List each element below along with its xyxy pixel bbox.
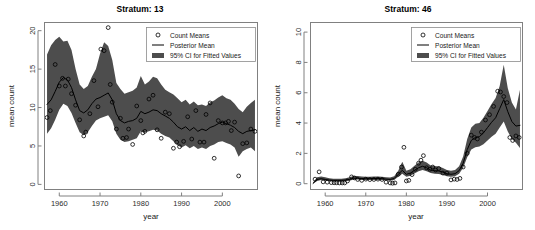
x-axis-tick-label: 1990 bbox=[173, 199, 190, 208]
legend-label-count-means: Count Means bbox=[170, 32, 210, 39]
y-axis-tick-label: 0 bbox=[28, 182, 37, 186]
chart-panel-stratum-13: Stratum: 13 05101520 1960197019801990200… bbox=[0, 0, 267, 230]
count-mean-point bbox=[106, 26, 110, 30]
count-mean-point bbox=[131, 143, 135, 147]
chart-svg-right: Stratum: 46 0246810 19601970198019902000… bbox=[268, 0, 535, 230]
x-axis-right: 19601970198019902000 bbox=[317, 193, 496, 209]
y-axis-tick-label: 4 bbox=[294, 121, 303, 125]
y-axis-tick-label: 2 bbox=[294, 151, 303, 155]
x-axis-tick-label: 1990 bbox=[439, 199, 456, 208]
legend-left: Count Means Posterior Mean 95% CI for Fi… bbox=[147, 28, 256, 62]
y-axis-tick-label: 0 bbox=[294, 182, 303, 186]
legend-label-ci: 95% CI for Fitted Values bbox=[170, 52, 242, 59]
figure-container: Stratum: 13 05101520 1960197019801990200… bbox=[0, 0, 535, 230]
y-axis-tick-label: 15 bbox=[28, 65, 37, 73]
count-mean-point bbox=[407, 178, 411, 182]
x-axis-title: year bbox=[408, 212, 424, 221]
x-axis-tick-label: 1980 bbox=[398, 199, 415, 208]
y-axis-right: 0246810 bbox=[294, 28, 308, 186]
y-axis-tick-label: 5 bbox=[28, 144, 37, 148]
x-axis-tick-label: 1960 bbox=[317, 199, 334, 208]
y-axis-tick-label: 10 bbox=[28, 103, 37, 111]
filled-band-icon bbox=[417, 53, 429, 58]
legend-label-posterior-mean: Posterior Mean bbox=[170, 42, 215, 49]
count-mean-point bbox=[402, 145, 406, 149]
x-axis-tick-label: 1970 bbox=[92, 199, 109, 208]
confidence-band bbox=[313, 65, 520, 184]
count-mean-point bbox=[237, 174, 241, 178]
y-axis-title: mean count bbox=[273, 84, 282, 127]
x-axis-title: year bbox=[143, 212, 159, 221]
count-mean-point bbox=[384, 180, 388, 184]
count-mean-point bbox=[212, 156, 216, 160]
count-mean-point bbox=[172, 146, 176, 150]
y-axis-title: mean count bbox=[7, 84, 16, 127]
panel-title: Stratum: 46 bbox=[385, 4, 432, 14]
x-axis-tick-label: 1960 bbox=[51, 199, 68, 208]
y-axis-tick-label: 20 bbox=[28, 27, 37, 35]
legend-label-posterior-mean: Posterior Mean bbox=[435, 42, 480, 49]
y-axis-tick-label: 8 bbox=[294, 60, 303, 64]
y-axis-tick-label: 10 bbox=[294, 28, 303, 36]
count-mean-point bbox=[422, 154, 426, 158]
y-axis-left: 05101520 bbox=[28, 27, 42, 187]
chart-panel-stratum-46: Stratum: 46 0246810 19601970198019902000… bbox=[268, 0, 535, 230]
y-axis-tick-label: 6 bbox=[294, 91, 303, 95]
legend-right: Count Means Posterior Mean 95% CI for Fi… bbox=[412, 28, 521, 62]
legend-label-ci: 95% CI for Fitted Values bbox=[435, 52, 507, 59]
x-axis-left: 19601970198019902000 bbox=[51, 193, 231, 209]
plot-area-right bbox=[313, 65, 521, 185]
filled-band-icon bbox=[152, 53, 164, 58]
x-axis-tick-label: 2000 bbox=[479, 199, 496, 208]
panel-title: Stratum: 13 bbox=[117, 4, 164, 14]
count-mean-point bbox=[317, 170, 321, 174]
chart-svg-left: Stratum: 13 05101520 1960197019801990200… bbox=[0, 0, 267, 230]
count-mean-point bbox=[393, 181, 397, 185]
count-mean-point bbox=[159, 136, 163, 140]
count-mean-point bbox=[321, 180, 325, 184]
x-axis-tick-label: 1970 bbox=[357, 199, 374, 208]
x-axis-tick-label: 2000 bbox=[214, 199, 231, 208]
legend-label-count-means: Count Means bbox=[435, 32, 475, 39]
x-axis-tick-label: 1980 bbox=[132, 199, 149, 208]
